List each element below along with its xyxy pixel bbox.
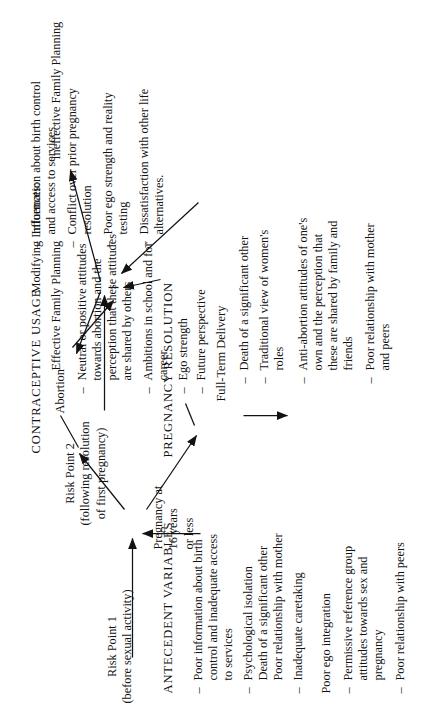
dash-glyph: – — [240, 685, 285, 693]
dash-glyph: – — [136, 239, 166, 247]
ineffective-family-planning-node: Ineffective Family Planning — [48, 21, 63, 159]
abortion-item-2: Ambitions in school and for career — [140, 242, 170, 380]
pregnancy-node-line-1: Pregnancy at — [150, 485, 165, 549]
risk-point-1-subtitle: (before sexual activity) — [119, 589, 134, 703]
poor-ego-integration-label: Poor ego integration — [318, 593, 332, 693]
list-item: – Traditional view of women's roles — [256, 229, 286, 383]
ineffective-family-planning-label: Ineffective Family Planning — [48, 21, 62, 159]
modifying-bullet-group-4: – Dissatisfaction with other life altern… — [136, 88, 167, 247]
dash-glyph: – — [340, 685, 385, 693]
fullterm-item-2: Traditional view of women's roles — [256, 229, 286, 370]
dash-glyph: – — [100, 239, 130, 247]
abortion-item-3: Ego strength — [175, 318, 190, 381]
dash-glyph: – — [140, 385, 170, 393]
abortion-bullet-group-1: – Neutral or positive attitudes towards … — [74, 234, 136, 394]
list-item: – Permissive reference group attitudes t… — [340, 545, 385, 693]
modifying-bullet-group-2: – Conflict over prior pregnancy resoluti… — [64, 88, 95, 248]
full-term-delivery-label: Full-Term Delivery — [213, 305, 227, 401]
leader-fullterm — [185, 403, 194, 425]
fullterm-bullet-group-3: – Anti-abortion attitudes of one's own a… — [295, 217, 357, 383]
antecedent-item-2: Psychological isolation Death of a signi… — [240, 533, 285, 680]
fullterm-item-3: Anti-abortion attitudes of one's own and… — [295, 217, 356, 370]
dash-glyph: – — [290, 685, 305, 693]
modifying-item-4: Dissatisfaction with other life alternat… — [136, 88, 166, 234]
antecedent-bullet-group-5: – Poor relationship with peers — [392, 542, 408, 693]
pregnancy-node-line-2: 16 years — [165, 485, 180, 549]
antecedent-bullet-group-2: – Psychological isolation Death of a sig… — [240, 533, 286, 693]
antecedent-item-4: Permissive reference group attitudes tow… — [340, 545, 385, 680]
effective-family-planning-node: Effective Family Planning — [48, 240, 63, 370]
abortion-item-4: Future perspective — [193, 289, 208, 380]
fullterm-bullet-group-4: – Poor relationship with mother and peer… — [362, 223, 393, 383]
dash-glyph: – — [74, 385, 135, 393]
dash-glyph: – — [392, 685, 407, 693]
dash-glyph: – — [190, 685, 235, 693]
antecedent-item-3: Inadequate caretaking — [290, 572, 305, 680]
list-item: – Ambitions in school and for career — [140, 242, 170, 393]
antecedent-item-5: Poor relationship with peers — [392, 542, 407, 680]
dash-glyph: – — [193, 385, 208, 393]
list-item: – Neutral or positive attitudes towards … — [74, 234, 135, 394]
modifying-item-3: Poor ego strength and reality testing — [100, 92, 130, 234]
modifying-bullet-group-3: – Poor ego strength and reality testing — [100, 92, 131, 247]
dash-glyph: – — [236, 375, 251, 383]
list-item: – Future perspective — [193, 289, 208, 393]
poor-ego-integration-node: Poor ego integration — [318, 593, 333, 693]
antecedent-bullet-group-4: – Permissive reference group attitudes t… — [340, 545, 386, 693]
dash-glyph: – — [256, 375, 286, 383]
risk-point-1: Risk Point 1 (before sexual activity) — [104, 589, 135, 703]
list-item: – Dissatisfaction with other life altern… — [136, 88, 166, 247]
antecedent-bullet-group-1: – Poor information about birth control a… — [190, 534, 236, 693]
risk-point-2: Risk Point 2 (following resolution of fi… — [62, 421, 108, 525]
fullterm-bullet-group-1: – Death of a significant other — [236, 235, 252, 383]
list-item: – Ego strength — [175, 318, 190, 394]
dash-glyph: – — [175, 385, 190, 393]
abortion-node: Abortion — [52, 369, 67, 413]
pregnancy-node-line-3: or less — [181, 485, 196, 549]
list-item: – Poor information about birth control a… — [190, 534, 235, 693]
dash-glyph: – — [28, 239, 58, 247]
list-item: – Poor ego strength and reality testing — [100, 92, 130, 247]
list-item: – Psychological isolation Death of a sig… — [240, 533, 285, 693]
full-term-delivery-node: Full-Term Delivery — [213, 305, 228, 401]
risk-point-2-title: Risk Point 2 — [62, 421, 77, 525]
fullterm-item-1: Death of a significant other — [236, 235, 251, 370]
list-item: – Inadequate caretaking — [290, 572, 305, 693]
pregnancy-at-16-node: Pregnancy at 16 years or less — [150, 485, 196, 549]
list-item: – Death of a significant other — [236, 235, 251, 383]
risk-point-2-subtitle-line-1: (following resolution — [77, 421, 92, 525]
dash-glyph: – — [295, 375, 356, 383]
abortion-label: Abortion — [52, 369, 66, 413]
list-item: – Conflict over prior pregnancy resoluti… — [64, 88, 94, 248]
list-item: – Anti-abortion attitudes of one's own a… — [295, 217, 356, 383]
effective-family-planning-label: Effective Family Planning — [48, 240, 62, 370]
modifying-item-2: Conflict over prior pregnancy resolution — [64, 88, 94, 235]
dash-glyph: – — [362, 375, 392, 383]
contraceptive-heading: CONTRACEPTIVE USAGE — [28, 288, 43, 453]
dash-glyph: – — [64, 239, 94, 247]
antecedent-item-1: Poor information about birth control and… — [190, 534, 235, 680]
contraceptive-usage-section: CONTRACEPTIVE USAGE — [28, 288, 43, 453]
list-item: – Poor relationship with mother and peer… — [362, 223, 392, 383]
fullterm-item-4: Poor relationship with mother and peers — [362, 223, 392, 370]
risk-point-1-title: Risk Point 1 — [104, 589, 119, 703]
fullterm-bullet-group-2: – Traditional view of women's roles — [256, 229, 287, 383]
list-item: – Poor relationship with peers — [392, 542, 407, 693]
abortion-bullet-group-3: – Ego strength — [175, 318, 191, 394]
diagram-canvas: Risk Point 1 (before sexual activity) Ri… — [0, 0, 447, 715]
antecedent-bullet-group-3: – Inadequate caretaking — [290, 572, 306, 693]
abortion-bullet-group-4: – Future perspective — [193, 289, 209, 393]
abortion-item-1: Neutral or positive attitudes towards ab… — [74, 234, 135, 381]
abortion-bullet-group-2: – Ambitions in school and for career — [140, 242, 171, 393]
risk-point-2-subtitle-line-2: of first pregnancy) — [93, 421, 108, 525]
